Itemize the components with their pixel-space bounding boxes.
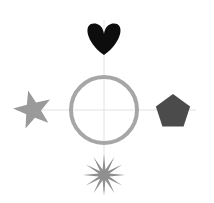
shape-compass-diagram [0,0,214,203]
diagram-canvas [0,0,214,203]
